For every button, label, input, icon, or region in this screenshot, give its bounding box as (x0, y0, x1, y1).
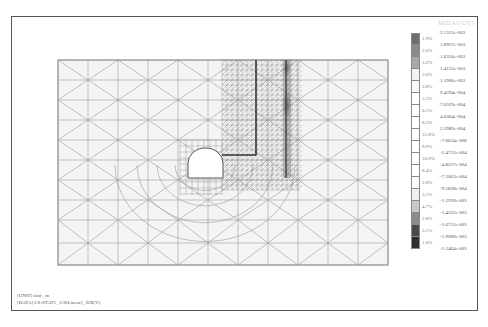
legend-segment (411, 105, 420, 117)
legend-segment (411, 201, 420, 213)
legend-value: -4.8257e-004 (440, 162, 467, 167)
legend-segment (411, 117, 420, 129)
legend-value: 4.6364e-004 (440, 114, 465, 119)
legend-percentage: 1.0% (422, 240, 432, 245)
legend-segment (411, 33, 420, 45)
legend-segment (411, 141, 420, 153)
legend-percentage: 5.5% (422, 96, 432, 101)
legend-percentage: 10.9% (422, 156, 435, 161)
legend-percentage: 2.8% (422, 180, 432, 185)
legend-value: 2.1312e-003 (440, 30, 465, 35)
legend-segment (411, 129, 420, 141)
legend-percentage: 12.8% (422, 132, 435, 137)
legend-percentage: 3.8% (422, 84, 432, 89)
legend-percentage: 8.4% (422, 168, 432, 173)
legend-percentage: 3.2% (422, 60, 432, 65)
legend-value: 1.4152e-003 (440, 66, 465, 71)
legend-percentage: 9.9% (422, 144, 432, 149)
legend-value: -2.1464e-003 (440, 246, 467, 251)
legend-segment (411, 69, 420, 81)
legend-value: -1.9089e-003 (440, 234, 467, 239)
legend-percentage: 1.9% (422, 36, 432, 41)
legend-segment (411, 213, 420, 225)
legend-value: 1.6350e-003 (440, 54, 465, 59)
legend-percentage: 2.8% (422, 216, 432, 221)
legend-value: -2.4722e-004 (440, 150, 467, 155)
legend-segment (411, 45, 420, 57)
legend-value: -1.6712e-003 (440, 222, 467, 227)
legend-segment (411, 153, 420, 165)
legend-segment (411, 165, 420, 177)
legend-segment (411, 225, 420, 237)
legend-segment (411, 57, 420, 69)
legend-segment (411, 81, 420, 93)
legend-value: -7.2063e-004 (440, 174, 467, 179)
legend-percentage: 2.0% (422, 48, 432, 53)
legend-value: 2.2989e-004 (440, 126, 465, 131)
legend-percentage: 8.2% (422, 120, 432, 125)
legend-value: 1.8937e-003 (440, 42, 465, 47)
legend-segment (411, 93, 420, 105)
legend-value: -1.4322e-003 (440, 210, 467, 215)
legend-percentage: 3.0% (422, 72, 432, 77)
legend-percentage: 4.7% (422, 204, 432, 209)
legend-value: 1.1906e-003 (440, 78, 465, 83)
tunnel-opening (188, 148, 223, 178)
footer-unit: [UNIT] tonf , m (17, 293, 49, 298)
legend-colorbar (411, 33, 420, 249)
legend-segment (411, 237, 420, 249)
legend-percentage: 3.1% (422, 228, 432, 233)
footer-data: [DATA] CS:STAT1 , CS[Linear] , DX(V) (17, 300, 100, 305)
legend-title: MIDAS/GTS (438, 20, 475, 26)
legend-value: -9.5828e-004 (440, 186, 467, 191)
legend-value: 7.0329e-004 (440, 102, 465, 107)
legend-percentage: 3.1% (422, 192, 432, 197)
legend-value: -7.6634e-006 (440, 138, 467, 143)
legend-value: -1.1959e-003 (440, 198, 467, 203)
legend-segment (411, 177, 420, 189)
legend-percentage: 6.1% (422, 108, 432, 113)
legend-segment (411, 189, 420, 201)
legend-value: 9.4294e-004 (440, 90, 465, 95)
